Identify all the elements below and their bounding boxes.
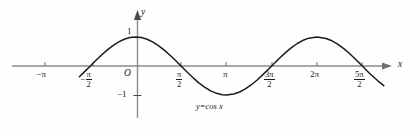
y-axis-label: y — [141, 8, 145, 18]
x-axis-label: x — [398, 60, 402, 70]
x-tick-label-neg-pi: −π — [36, 70, 47, 79]
fraction-denominator: 2 — [86, 79, 92, 89]
x-tick-label-neg-pi-over-2: − π 2 — [80, 70, 92, 89]
x-tick-label-2pi: 2π — [310, 70, 319, 79]
fraction-denominator: 2 — [264, 79, 275, 89]
origin-label: O — [124, 69, 131, 79]
neg-pi-over-2-fraction: π 2 — [86, 70, 92, 89]
fraction-numerator: 5π — [354, 70, 365, 79]
cosine-function-graph: y x O 1 −1 −π − π 2 π 2 π 3π 2 2π 5π — [0, 0, 420, 131]
three-pi-over-2-fraction: 3π 2 — [264, 70, 275, 89]
x-tick-label-pi-over-2: π 2 — [176, 70, 182, 89]
curve-equation-label: y=cos x — [196, 102, 223, 111]
pi-over-2-fraction: π 2 — [176, 70, 182, 89]
fraction-numerator: π — [176, 70, 182, 79]
x-tick-label-pi: π — [223, 70, 228, 79]
x-axis-arrowhead — [382, 62, 392, 69]
fraction-numerator: π — [86, 70, 92, 79]
y-tick-label-one: 1 — [127, 27, 132, 36]
fraction-numerator: 3π — [264, 70, 275, 79]
fraction-denominator: 2 — [354, 79, 365, 89]
fraction-denominator: 2 — [176, 79, 182, 89]
graph-canvas — [0, 0, 420, 131]
neg-pi-symbol: π — [42, 70, 47, 79]
y-tick-label-negative-one: −1 — [117, 90, 127, 99]
five-pi-over-2-fraction: 5π 2 — [354, 70, 365, 89]
x-tick-label-5pi-over-2: 5π 2 — [354, 70, 365, 89]
x-tick-label-3pi-over-2: 3π 2 — [264, 70, 275, 89]
